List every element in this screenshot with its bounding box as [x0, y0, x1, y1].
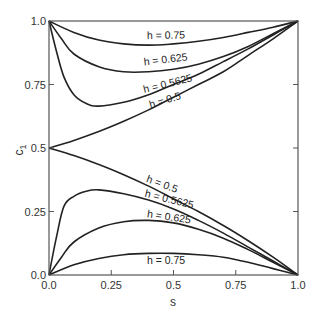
x-axis-label: s — [170, 295, 176, 309]
y-tick-label: 0.25 — [25, 206, 46, 218]
y-tick-label: 0.75 — [25, 79, 46, 91]
y-tick-label: 0.5 — [31, 142, 46, 154]
y-axis-label: c1 — [12, 144, 28, 155]
y-axis-label-sub: 1 — [18, 144, 28, 149]
chart: 0.00.250.50.751.00.00.250.50.751.0 h = 0… — [0, 0, 316, 314]
x-tick-label: 1.0 — [290, 279, 305, 291]
svg-text:c1: c1 — [12, 144, 28, 155]
curve-label: h = 0.625 — [143, 50, 188, 67]
x-tick-label: 0.75 — [225, 279, 246, 291]
x-tick-label: 0.5 — [166, 279, 181, 291]
x-tick-label: 0.25 — [101, 279, 122, 291]
y-tick-label: 1.0 — [31, 15, 46, 27]
y-tick-label: 0.0 — [31, 269, 46, 281]
curve-lower-h-0_625 — [49, 220, 298, 275]
curve-label: h = 0.75 — [147, 28, 186, 41]
curve-labels-group: h = 0.75h = 0.625h = 0.5625h = 0.5h = 0.… — [142, 28, 195, 265]
curve-label: h = 0.75 — [147, 254, 185, 266]
